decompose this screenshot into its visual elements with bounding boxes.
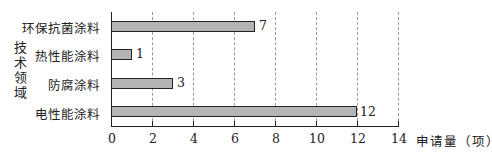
gridline bbox=[398, 12, 399, 126]
y-title-char: 域 bbox=[12, 85, 28, 100]
x-tick bbox=[193, 121, 194, 126]
x-tick-label: 10 bbox=[309, 131, 325, 146]
y-axis-title: 技 术 领 域 bbox=[12, 40, 28, 100]
bar-value-label: 1 bbox=[136, 46, 144, 61]
x-tick bbox=[398, 121, 399, 126]
x-tick bbox=[357, 121, 358, 126]
x-axis-line bbox=[111, 126, 399, 127]
x-tick-label: 6 bbox=[231, 131, 239, 146]
x-tick bbox=[275, 121, 276, 126]
bar bbox=[111, 21, 255, 32]
category-label: 电性能涂料 bbox=[35, 104, 100, 123]
y-title-char: 技 bbox=[12, 40, 28, 55]
x-tick-label: 4 bbox=[190, 131, 198, 146]
bar-value-label: 3 bbox=[177, 75, 185, 90]
bar bbox=[111, 78, 173, 89]
x-axis-title: 申请量（项） bbox=[416, 131, 492, 150]
bar bbox=[111, 49, 132, 60]
y-title-char: 术 bbox=[12, 55, 28, 70]
x-tick-label: 8 bbox=[272, 131, 280, 146]
category-label: 环保抗菌涂料 bbox=[22, 18, 100, 37]
bar-value-label: 12 bbox=[360, 104, 376, 119]
x-tick bbox=[234, 121, 235, 126]
bar bbox=[111, 106, 357, 117]
x-tick-label: 12 bbox=[350, 131, 366, 146]
category-label: 热性能涂料 bbox=[35, 46, 100, 65]
y-title-char: 领 bbox=[12, 70, 28, 85]
gridline bbox=[357, 12, 358, 126]
chart: 技 术 领 域 环保抗菌涂料 热性能涂料 防腐涂料 电性能涂料 7 1 3 12… bbox=[0, 0, 492, 156]
x-tick bbox=[316, 121, 317, 126]
x-tick-label: 2 bbox=[149, 131, 157, 146]
bar-value-label: 7 bbox=[259, 18, 267, 33]
y-axis-line bbox=[111, 12, 112, 127]
x-tick bbox=[152, 121, 153, 126]
x-tick-label: 14 bbox=[391, 131, 407, 146]
x-tick-label: 0 bbox=[108, 131, 116, 146]
category-label: 防腐涂料 bbox=[48, 75, 100, 94]
